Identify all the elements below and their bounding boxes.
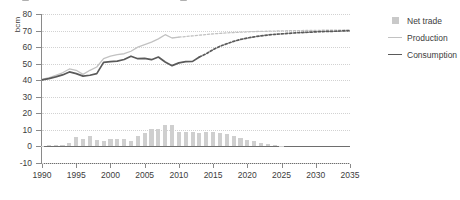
legend-item[interactable]: Consumption [388, 46, 460, 63]
y-tick-label: 70 [2, 26, 32, 36]
y-tick [36, 130, 41, 131]
x-tick [247, 164, 248, 168]
y-tick [36, 146, 41, 147]
y-tick [36, 97, 41, 98]
legend-label: Production [407, 33, 448, 43]
series-line [199, 31, 350, 57]
plot-area [42, 14, 350, 163]
y-tick [36, 113, 41, 114]
chart-legend: Net tradeProductionConsumption [388, 12, 460, 63]
y-tick-label: 0 [2, 141, 32, 151]
legend-item[interactable]: Net trade [388, 12, 460, 29]
y-tick-label: 60 [2, 42, 32, 52]
x-tick [282, 164, 283, 168]
cropped-title-artifact [0, 0, 460, 6]
y-tick-label: 80 [2, 9, 32, 19]
y-tick [36, 47, 41, 48]
x-tick [179, 164, 180, 168]
series-line [42, 56, 199, 80]
y-tick [36, 31, 41, 32]
legend-label: Consumption [407, 50, 457, 60]
x-tick [145, 164, 146, 168]
y-tick [36, 80, 41, 81]
line-swatch-icon [388, 33, 402, 43]
x-tick [110, 164, 111, 168]
x-tick [316, 164, 317, 168]
y-tick-label: -10 [2, 158, 32, 168]
y-tick-label: 50 [2, 59, 32, 69]
legend-label: Net trade [407, 16, 442, 26]
y-tick [36, 163, 41, 164]
gridline [42, 163, 350, 164]
x-tick [350, 164, 351, 168]
x-tick [76, 164, 77, 168]
chart-figure: bcm -1001020304050607080 199019952000200… [0, 0, 460, 200]
y-tick [36, 64, 41, 65]
y-tick-label: 20 [2, 108, 32, 118]
line-swatch-icon [388, 50, 402, 60]
line-series-layer [42, 14, 350, 163]
y-tick-label: 10 [2, 125, 32, 135]
y-tick [36, 14, 41, 15]
x-tick [213, 164, 214, 168]
x-tick [42, 164, 43, 168]
legend-item[interactable]: Production [388, 29, 460, 46]
x-tick-label: 2035 [330, 170, 370, 180]
y-tick-label: 30 [2, 92, 32, 102]
y-tick-label: 40 [2, 75, 32, 85]
square-swatch-icon [388, 16, 402, 26]
